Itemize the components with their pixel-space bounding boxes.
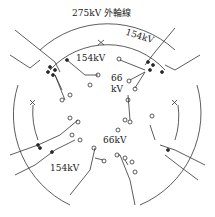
breaker-x-markers [30, 40, 177, 105]
substation-lower-right [115, 114, 205, 205]
label-275kv-outer-ring: 275kV 外輪線 [72, 9, 131, 18]
label-66kv-bottom: 66kV [103, 136, 126, 145]
label-154kv-upper-left: 154kV [76, 54, 105, 63]
label-66kv-top-line1: 66 [111, 74, 122, 83]
label-66kv-top-line2: kV [111, 85, 123, 94]
power-grid-diagram [0, 0, 215, 217]
substation-upper-right [117, 28, 200, 124]
label-154kv-lower-left: 154kV [50, 164, 79, 173]
ring-154kv [50, 45, 165, 70]
substation-lower-left [10, 116, 106, 195]
substation-upper-left [10, 30, 100, 102]
